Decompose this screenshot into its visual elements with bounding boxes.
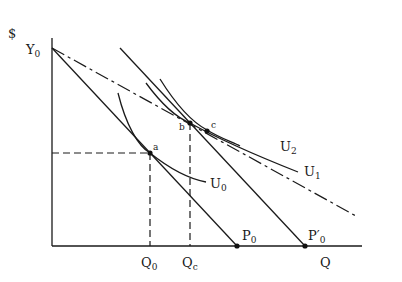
economics-diagram: $ Q Y0 a b c U0 U1 U2 P0 P′0 Q0 Qc: [0, 0, 402, 282]
point-p0-prime: [302, 243, 307, 248]
indifference-curve-u1: [146, 83, 298, 172]
u1-label: U1: [304, 164, 321, 181]
point-c-label: c: [211, 120, 216, 130]
compensated-budget-line: [52, 48, 356, 216]
point-a: [147, 150, 152, 155]
y0-label: Y0: [25, 42, 41, 59]
point-b: [187, 120, 192, 125]
q0-label: Q0: [141, 255, 158, 272]
budget-line-p0-prime: [120, 48, 305, 246]
point-a-label: a: [153, 142, 159, 152]
x-axis-label: Q: [320, 255, 331, 270]
y-axis-label: $: [8, 26, 16, 41]
u2-label: U2: [280, 139, 297, 156]
p0-prime-label: P′0: [308, 228, 326, 245]
indifference-curve-u0: [118, 93, 206, 182]
budget-line-p0: [52, 48, 237, 246]
qc-label: Qc: [182, 255, 198, 272]
point-c: [204, 128, 209, 133]
p0-label: P0: [242, 228, 257, 245]
point-p0: [234, 243, 239, 248]
point-b-label: b: [179, 122, 185, 132]
u0-label: U0: [210, 176, 227, 193]
